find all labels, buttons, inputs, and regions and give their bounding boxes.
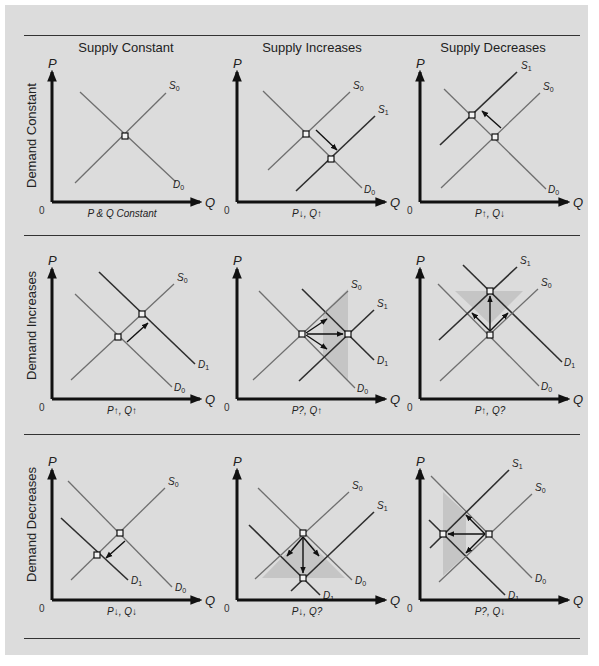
curve-label-d0: D0	[174, 382, 185, 394]
equilibrium-point	[300, 575, 306, 581]
equilibrium-point	[94, 552, 100, 558]
column-header-supply-constant: Supply Constant	[36, 40, 216, 55]
outcome-caption-r3c3: P?, Q↓	[415, 606, 565, 617]
price-axis-label: P	[416, 253, 425, 268]
curve-label-s1: S1	[377, 500, 388, 512]
row-header-demand-increases: Demand Increases	[24, 271, 39, 380]
curve-label-d0: D0	[535, 573, 546, 585]
supply-demand-plot-r3c3: D0D1S0S1PQ	[410, 460, 585, 610]
row-divider-1	[24, 235, 580, 236]
outcome-caption-r1c1: P & Q Constant	[47, 208, 197, 219]
price-axis-label: P	[416, 454, 425, 469]
supply-demand-plot-r3c2: D0D1S0S1PQ	[227, 460, 402, 610]
supply-demand-plot-r2c1: D0D1S0PQ	[42, 259, 217, 409]
origin-label: 0	[224, 603, 230, 614]
outcome-caption-r1c3: P↑, Q↓	[415, 208, 565, 219]
curve-label-d0: D0	[541, 381, 552, 393]
supply-curve-s0	[75, 93, 166, 183]
shift-arrow	[466, 534, 485, 553]
equilibrium-point	[300, 530, 306, 536]
origin-label: 0	[39, 402, 45, 413]
equilibrium-point	[122, 133, 128, 139]
quantity-axis-label: Q	[573, 593, 583, 608]
origin-label: 0	[39, 603, 45, 614]
supply-curve-s1	[296, 116, 375, 191]
bottom-rule	[24, 638, 580, 639]
curve-label-d1: D1	[564, 357, 575, 369]
supply-curve-s0	[441, 93, 540, 188]
outcome-caption-r3c1: P↓, Q↓	[47, 606, 197, 617]
quantity-axis-label: Q	[573, 195, 583, 210]
origin-label: 0	[39, 205, 45, 216]
equilibrium-point	[117, 530, 123, 536]
curve-label-d1: D1	[377, 355, 388, 367]
supply-curve-s1	[440, 72, 517, 145]
curve-label-d0: D0	[364, 184, 375, 196]
supply-demand-plot-r1c1: D0S0PQ	[42, 62, 217, 212]
equilibrium-point	[492, 134, 498, 140]
quantity-axis-label: Q	[205, 593, 215, 608]
shift-arrow	[316, 130, 337, 150]
supply-curve-s0	[71, 284, 174, 380]
column-header-supply-decreases: Supply Decreases	[403, 40, 583, 55]
outcome-caption-r2c3: P↑, Q?	[415, 405, 565, 416]
curve-label-s1: S1	[378, 104, 389, 116]
equilibrium-point	[486, 531, 492, 537]
price-axis-label: P	[233, 454, 242, 469]
curve-label-d0: D0	[355, 575, 366, 587]
quantity-axis-label: Q	[205, 195, 215, 210]
curve-label-s0: S0	[169, 80, 180, 92]
curve-label-d0: D0	[173, 179, 184, 191]
curve-label-s0: S0	[541, 277, 552, 289]
supply-demand-plot-r1c2: D0S0S1PQ	[227, 62, 402, 212]
quantity-axis-label: Q	[390, 593, 400, 608]
outcome-caption-r2c2: P?, Q↑	[232, 405, 382, 416]
curve-label-s1: S1	[521, 60, 532, 72]
supply-demand-plot-r2c3: D0D1S0S1PQ	[410, 259, 585, 409]
price-axis-label: P	[48, 253, 57, 268]
curve-label-d0: D0	[357, 383, 368, 395]
outcome-caption-r1c2: P↓, Q↑	[232, 208, 382, 219]
shift-arrow	[466, 515, 485, 534]
equilibrium-point	[115, 334, 121, 340]
equilibrium-point	[440, 531, 446, 537]
row-divider-2	[24, 434, 580, 435]
curve-label-d1: D1	[198, 359, 209, 371]
curve-label-s0: S0	[353, 80, 364, 92]
demand-curve-d0	[75, 294, 172, 387]
demand-curve-d1	[61, 518, 128, 580]
origin-label: 0	[407, 402, 413, 413]
uncertainty-region	[455, 291, 523, 324]
equilibrium-point	[328, 156, 334, 162]
price-axis-label: P	[233, 253, 242, 268]
curve-label-s0: S0	[351, 279, 362, 291]
curve-label-d1: D1	[131, 575, 142, 587]
origin-label: 0	[224, 205, 230, 216]
curve-label-s0: S0	[168, 476, 179, 488]
equilibrium-point	[303, 131, 309, 137]
outcome-caption-r2c1: P↑, Q↑	[47, 405, 197, 416]
demand-curve-d0	[263, 91, 362, 188]
curve-label-s1: S1	[377, 298, 388, 310]
origin-label: 0	[407, 205, 413, 216]
equilibrium-point	[487, 288, 493, 294]
supply-demand-plot-r3c1: D0D1S0PQ	[42, 460, 217, 610]
price-axis-label: P	[233, 56, 242, 71]
price-axis-label: P	[48, 454, 57, 469]
row-header-demand-constant: Demand Constant	[24, 83, 39, 188]
shift-arrow	[127, 323, 148, 342]
top-rule	[24, 35, 580, 36]
quantity-axis-label: Q	[205, 392, 215, 407]
curve-label-s0: S0	[543, 81, 554, 93]
supply-demand-plot-r1c3: D0S0S1PQ	[410, 62, 585, 212]
quantity-axis-label: Q	[390, 195, 400, 210]
price-axis-label: P	[416, 56, 425, 71]
shift-arrow	[482, 111, 501, 128]
outcome-caption-r3c2: P↓, Q?	[232, 606, 382, 617]
curve-label-s1: S1	[512, 458, 523, 470]
quantity-axis-label: Q	[573, 392, 583, 407]
equilibrium-point	[139, 311, 145, 317]
equilibrium-point	[487, 332, 493, 338]
price-axis-label: P	[48, 56, 57, 71]
origin-label: 0	[407, 603, 413, 614]
